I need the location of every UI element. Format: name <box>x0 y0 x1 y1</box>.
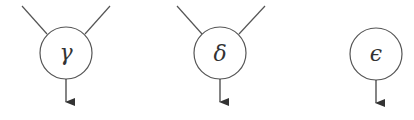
delta-input-right-edge <box>239 6 265 34</box>
gamma-input-right-edge <box>85 6 110 34</box>
node-gamma: γ <box>22 6 110 102</box>
epsilon-label: ϵ <box>370 41 382 66</box>
node-epsilon: ϵ <box>350 28 402 103</box>
node-delta: δ <box>177 6 265 102</box>
gamma-input-left-edge <box>22 6 47 34</box>
diagram-canvas: γ δ ϵ <box>0 0 414 120</box>
gamma-label: γ <box>59 40 73 65</box>
delta-label: δ <box>213 41 226 66</box>
delta-input-left-edge <box>177 6 202 34</box>
